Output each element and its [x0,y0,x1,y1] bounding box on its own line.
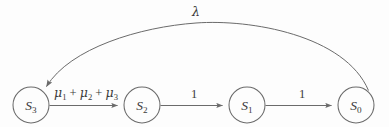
node-label-s0-sub: 0 [357,105,362,115]
edge-label-rate-s2-s1: 1 [191,87,197,101]
plus-op-2: + [92,86,105,100]
node-label-s2-sub: 2 [143,105,148,115]
mu-3-glyph: μ [106,85,114,100]
edge-label-rate-s1-s0: 1 [299,87,305,101]
node-label-s3-sub: 3 [32,105,37,115]
edge-arc-s0-to-s3 [47,22,369,90]
edge-label-mu-sum: μ1 + μ2 + μ3 [54,85,118,102]
mu-2-glyph: μ [80,85,88,100]
mu-1-glyph: μ [54,85,62,100]
state-transition-diagram: S3 S2 S1 S0 μ1 + μ2 + μ3 1 1 λ [0,0,389,127]
diagram-canvas: S3 S2 S1 S0 μ1 + μ2 + μ3 1 1 λ [0,0,389,127]
edge-label-lambda: λ [191,4,200,19]
mu-3-sub: 3 [114,92,118,102]
plus-op-1: + [66,86,79,100]
node-label-s1-sub: 1 [248,105,253,115]
